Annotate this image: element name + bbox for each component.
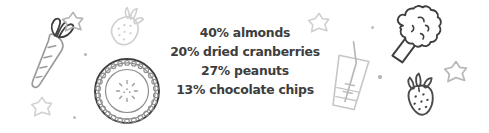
decorative-dot	[371, 26, 374, 29]
recipe-ingredient-list: 40% almonds 20% dried cranberries 27% pe…	[150, 24, 340, 99]
carrot-icon	[22, 12, 82, 97]
recipe-line: 27% peanuts	[150, 62, 340, 81]
recipe-line: 13% chocolate chips	[150, 81, 340, 100]
broccoli-icon	[382, 4, 446, 66]
star-icon	[443, 59, 469, 85]
recipe-line: 20% dried cranberries	[150, 43, 340, 62]
strawberry-icon	[104, 6, 150, 50]
trail-mix-infographic: 40% almonds 20% dried cranberries 27% pe…	[0, 0, 489, 133]
decorative-dot	[84, 53, 87, 56]
decorative-dot	[378, 75, 382, 79]
star-icon	[61, 10, 85, 34]
star-icon	[30, 95, 54, 119]
recipe-line: 40% almonds	[150, 24, 340, 43]
strawberry-icon	[398, 68, 446, 120]
decorative-dot	[73, 116, 76, 119]
